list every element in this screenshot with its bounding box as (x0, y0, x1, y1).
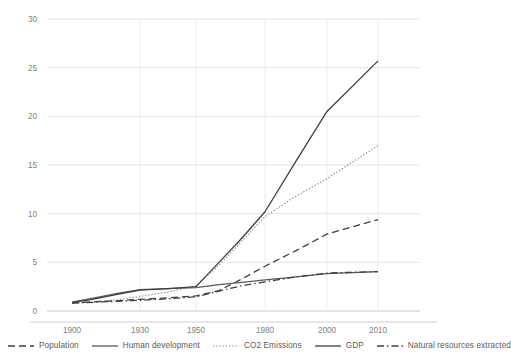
chart-legend: PopulationHuman developmentCO2 Emissions… (0, 336, 444, 356)
legend-item-label: GDP (346, 341, 364, 351)
legend-item-natural-resources-extracted[interactable]: Natural resources extracted (377, 341, 511, 351)
y-tick-label: 30 (28, 15, 38, 24)
dashdot-line-icon (377, 341, 403, 351)
x-tick-label: 1900 (63, 326, 82, 335)
y-tick-label: 10 (28, 210, 38, 219)
legend-item-co2-emissions[interactable]: CO2 Emissions (213, 341, 302, 351)
x-tick-label: 2010 (369, 326, 388, 335)
dotted-line-icon (213, 341, 239, 351)
y-tick-label: 15 (28, 161, 38, 170)
x-axis-tick-labels: 190019301950198020002010 (63, 326, 388, 335)
y-tick-label: 20 (28, 112, 38, 121)
legend-item-label: CO2 Emissions (244, 341, 302, 351)
x-tick-label: 1930 (131, 326, 150, 335)
y-gridlines (47, 19, 420, 311)
series-line-population (72, 220, 378, 303)
legend-item-population[interactable]: Population (8, 341, 79, 351)
series-lines (72, 61, 378, 303)
chart-svg: 051015202530 190019301950198020002010 (0, 0, 444, 330)
legend-item-label: Population (39, 341, 79, 351)
y-tick-label: 25 (28, 64, 38, 73)
x-tick-label: 1980 (256, 326, 275, 335)
y-tick-label: 5 (32, 258, 37, 267)
legend-item-label: Natural resources extracted (408, 341, 511, 351)
solid-line-icon (92, 341, 118, 351)
x-tick-label: 1950 (187, 326, 206, 335)
x-tick-label: 2000 (318, 326, 337, 335)
y-axis-tick-labels: 051015202530 (28, 15, 38, 316)
plot-area: 051015202530 190019301950198020002010 (0, 0, 444, 330)
series-line-gdp (72, 61, 378, 303)
legend-item-gdp[interactable]: GDP (315, 341, 364, 351)
dashed-line-icon (8, 341, 34, 351)
solid-line-icon (315, 341, 341, 351)
series-line-co2-emissions (72, 146, 378, 304)
y-tick-label: 0 (32, 307, 37, 316)
legend-item-human-development[interactable]: Human development (92, 341, 200, 351)
legend-item-label: Human development (123, 341, 200, 351)
